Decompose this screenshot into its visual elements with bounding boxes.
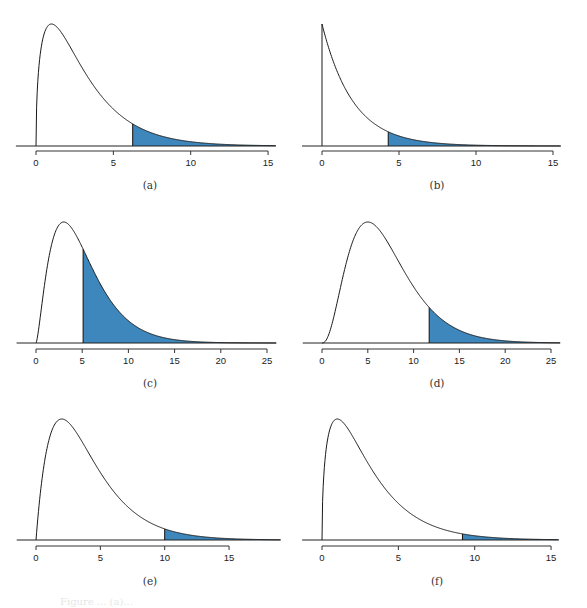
panel-caption: (e) (143, 575, 157, 587)
panel-caption: (b) (430, 179, 445, 191)
panel-caption: (d) (430, 377, 445, 389)
shaded-tail-area (429, 307, 560, 343)
x-tick-label: 5 (396, 157, 401, 168)
x-tick-label: 0 (33, 157, 38, 168)
x-tick-label: 25 (546, 355, 557, 366)
x-tick-label: 10 (408, 355, 419, 366)
density-curve (36, 222, 276, 343)
chart-panel-c: 0510152025(c) (17, 222, 277, 389)
x-tick-label: 5 (365, 355, 370, 366)
x-tick-label: 15 (263, 157, 274, 168)
x-tick-label: 5 (98, 552, 103, 563)
chart-panel-e: 051015(e) (17, 419, 281, 587)
chart-panel-a: 051015(a) (16, 24, 276, 191)
shaded-tail-area (83, 249, 276, 343)
x-tick-label: 15 (454, 355, 465, 366)
x-tick-label: 15 (169, 355, 180, 366)
x-tick-label: 0 (319, 552, 324, 563)
panel-caption: (f) (431, 575, 443, 587)
x-tick-label: 10 (159, 552, 170, 563)
x-tick-label: 0 (33, 552, 38, 563)
x-tick-label: 15 (546, 552, 557, 563)
chart-panel-d: 0510152025(d) (303, 222, 560, 389)
x-tick-label: 5 (80, 355, 85, 366)
x-tick-label: 0 (319, 157, 324, 168)
density-curve (36, 419, 281, 540)
x-tick-label: 20 (216, 355, 227, 366)
x-tick-label: 5 (396, 552, 401, 563)
x-tick-label: 10 (185, 157, 196, 168)
shaded-tail-area (388, 132, 560, 146)
x-tick-label: 25 (262, 355, 273, 366)
x-tick-label: 10 (469, 552, 480, 563)
density-curve (322, 24, 561, 146)
x-tick-label: 15 (548, 157, 559, 168)
panel-caption: (c) (143, 377, 157, 389)
x-tick-label: 10 (471, 157, 482, 168)
x-tick-label: 10 (123, 355, 134, 366)
x-tick-label: 15 (224, 552, 235, 563)
x-tick-label: 0 (33, 355, 38, 366)
density-curve (322, 419, 559, 540)
chi-square-figure: 051015(a) 051015(b) 0510152025(c) 051015… (0, 0, 587, 608)
chart-panel-b: 051015(b) (302, 24, 561, 191)
figure-footer-text: Figure ... (a)... (60, 596, 133, 607)
x-tick-label: 20 (500, 355, 511, 366)
density-curve (36, 24, 276, 146)
chart-panel-f: 051015(f) (302, 419, 559, 587)
x-tick-label: 5 (111, 157, 116, 168)
panel-caption: (a) (143, 179, 157, 191)
x-tick-label: 0 (319, 355, 324, 366)
